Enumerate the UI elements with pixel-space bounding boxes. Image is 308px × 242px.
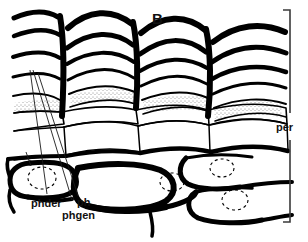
label-ph: ph <box>77 196 91 208</box>
label-phder: phder <box>31 197 62 209</box>
label-per: per <box>276 121 294 133</box>
label-phgen: phgen <box>62 209 95 221</box>
periderm-diagram-svg: B per phder ph phgen <box>0 0 308 242</box>
figure-panel-b: B per phder ph phgen <box>0 0 308 242</box>
panel-label-b: B <box>152 10 163 27</box>
